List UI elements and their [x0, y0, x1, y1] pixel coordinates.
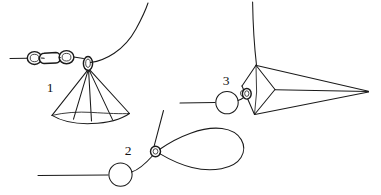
structure-2-riser-filament	[132, 156, 153, 173]
structure-1-group: 1	[10, 3, 148, 124]
chain-connector-3	[74, 57, 84, 58]
structure-3-convergence-lines	[255, 66, 369, 115]
structure-3-crossing-ring	[240, 89, 251, 100]
convergence-line-bottom	[255, 92, 369, 114]
kite-left-upper-edge	[242, 65, 256, 86]
structure-2-crossing-ring	[151, 146, 161, 156]
structure-1-crossing-ring	[83, 57, 92, 72]
chain-ring-3	[59, 51, 74, 64]
structure-3-group: 3	[180, 2, 369, 115]
structure-1-bead-chain	[27, 51, 83, 65]
kite-inner-crease	[255, 65, 257, 114]
label-2: 2	[125, 143, 132, 158]
cone-fan-line-5	[90, 70, 129, 113]
structure-3-vertical-riser	[253, 2, 257, 65]
label-3: 3	[223, 73, 230, 88]
structure-2-teardrop-loop	[160, 128, 244, 170]
structure-3-bead-circle	[216, 91, 238, 113]
label-1: 1	[47, 80, 54, 95]
crossing-ring-2-outer	[151, 146, 161, 156]
cone-fan-line-3	[89, 71, 92, 121]
convergence-line-middle	[275, 90, 368, 92]
structure-2-incoming-filament	[38, 175, 108, 176]
crossing-ring-3-outer	[242, 89, 251, 100]
structure-2-riser-line	[154, 111, 164, 147]
structure-2-bead-circle	[109, 163, 132, 186]
structure-1-sweep-curve	[91, 3, 149, 63]
figure-drawing: 1 2	[0, 0, 381, 195]
figure-container: 1 2	[0, 0, 381, 195]
cone-fan-line-1	[52, 71, 87, 116]
